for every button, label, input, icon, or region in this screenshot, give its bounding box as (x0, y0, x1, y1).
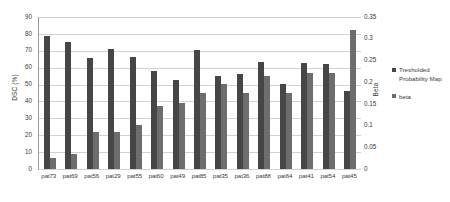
legend-label: Tresholded Probability Map (399, 66, 450, 84)
bar-group (103, 17, 124, 169)
bar-group (211, 17, 232, 169)
x-label-pat56: pat56 (81, 172, 102, 186)
x-label-pat49: pat49 (167, 172, 188, 186)
y-tick-right-0.35: 0.35 (364, 14, 392, 20)
bar-beta-pat85 (200, 93, 206, 169)
legend-label: beta (399, 93, 411, 102)
bar-group (168, 17, 189, 169)
bar-group (254, 17, 275, 169)
y-tick-right-0.2: 0.2 (364, 79, 392, 85)
bar-beta-pat60 (157, 106, 163, 169)
x-label-pat73: pat73 (38, 172, 59, 186)
bar-beta-pat64 (286, 93, 292, 169)
y-tick-left-10: 10 (10, 149, 32, 155)
y-tick-right-0.05: 0.05 (364, 144, 392, 150)
legend-swatch-icon (392, 68, 396, 72)
bar-beta-pat73 (50, 158, 56, 169)
y-tick-right-0.1: 0.1 (364, 122, 392, 128)
y-tick-left-40: 40 (10, 98, 32, 104)
bar-group (275, 17, 296, 169)
bar-group (125, 17, 146, 169)
bar-group (189, 17, 210, 169)
y-tick-left-70: 70 (10, 47, 32, 53)
bar-group (297, 17, 318, 169)
bar-dsc-pat69 (65, 42, 71, 170)
y-tick-left-30: 30 (10, 115, 32, 121)
bar-beta-pat35 (221, 84, 227, 169)
y-tick-left-90: 90 (10, 14, 32, 20)
bar-group (82, 17, 103, 169)
bar-beta-pat45 (350, 30, 356, 169)
x-label-pat69: pat69 (59, 172, 80, 186)
gridline (39, 169, 361, 170)
bar-beta-pat88 (264, 76, 270, 169)
x-label-pat36: pat36 (231, 172, 252, 186)
chart-legend: Tresholded Probability Mapbeta (392, 66, 450, 111)
y-tick-right-0.3: 0.3 (364, 35, 392, 41)
bar-group (340, 17, 361, 169)
x-label-pat88: pat88 (253, 172, 274, 186)
x-label-pat29: pat29 (102, 172, 123, 186)
y-tick-left-20: 20 (10, 132, 32, 138)
bar-series-container (39, 17, 361, 169)
x-label-pat64: pat64 (274, 172, 295, 186)
x-label-pat54: pat54 (317, 172, 338, 186)
x-label-pat55: pat55 (124, 172, 145, 186)
legend-item-0[interactable]: Tresholded Probability Map (392, 66, 450, 84)
bar-group (232, 17, 253, 169)
bar-beta-pat29 (114, 132, 120, 169)
y-axis-left-ticks: 0102030405060708090 (10, 0, 32, 202)
x-label-pat45: pat45 (339, 172, 360, 186)
bar-group (60, 17, 81, 169)
y-tick-right-0: 0 (364, 166, 392, 172)
bar-beta-pat55 (136, 125, 142, 169)
plot-area (38, 17, 361, 170)
y-tick-left-0: 0 (10, 166, 32, 172)
y-tick-right-0.15: 0.15 (364, 101, 392, 107)
x-label-pat35: pat35 (210, 172, 231, 186)
y-tick-left-80: 80 (10, 31, 32, 37)
bar-beta-pat41 (307, 73, 313, 169)
x-label-pat41: pat41 (296, 172, 317, 186)
bar-dsc-pat73 (44, 36, 50, 169)
y-axis-right-ticks: 00.050.10.150.20.250.30.35 (364, 0, 392, 202)
y-tick-left-50: 50 (10, 81, 32, 87)
legend-swatch-icon (392, 94, 396, 98)
bar-group (146, 17, 167, 169)
y-tick-right-0.25: 0.25 (364, 57, 392, 63)
bar-group (39, 17, 60, 169)
legend-item-1[interactable]: beta (392, 93, 450, 102)
bar-beta-pat69 (71, 154, 77, 169)
x-label-pat60: pat60 (145, 172, 166, 186)
bar-group (318, 17, 339, 169)
bar-beta-pat54 (329, 73, 335, 169)
y-tick-left-60: 60 (10, 64, 32, 70)
bar-beta-pat36 (243, 93, 249, 169)
bar-chart: DSC (%) Beta 0102030405060708090 00.050.… (0, 0, 450, 202)
bar-beta-pat56 (93, 132, 99, 169)
bar-beta-pat49 (179, 103, 185, 169)
x-axis-category-labels: pat73pat69pat56pat29pat55pat60pat49pat85… (38, 172, 360, 186)
x-label-pat85: pat85 (188, 172, 209, 186)
